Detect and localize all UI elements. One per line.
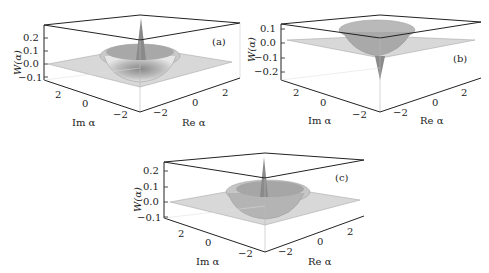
x-tick: 0 [192, 98, 198, 108]
x-tick: −2 [153, 108, 168, 118]
y-tick: −2 [113, 110, 128, 120]
y-axis-label: Im α [72, 118, 95, 128]
x-tick: 0 [432, 98, 438, 108]
y-tick: 2 [178, 229, 184, 239]
x-tick: 2 [222, 88, 228, 98]
y-tick: 2 [293, 88, 299, 98]
surface-plot-b [245, 0, 489, 135]
x-tick: −2 [278, 247, 293, 257]
x-tick: −2 [393, 108, 408, 118]
z-tick: 0.0 [143, 197, 159, 207]
z-tick: 0.2 [143, 166, 159, 176]
y-axis-label: Im α [196, 257, 219, 267]
panel-b: 0.1 0.0 −0.1 −0.2 W(α) (b) 2 0 −2 −2 0 2… [245, 0, 489, 135]
z-tick: 0.0 [260, 38, 276, 48]
y-tick: −2 [238, 249, 253, 259]
x-tick: 2 [461, 88, 467, 98]
z-axis-label: W(α) [246, 37, 257, 62]
y-tick: 2 [55, 90, 61, 100]
x-tick: 0 [317, 237, 323, 247]
z-axis-label: W(α) [12, 50, 23, 75]
z-tick: 0.0 [23, 59, 39, 69]
z-tick: 0.1 [260, 24, 276, 34]
x-axis-label: Re α [308, 257, 331, 267]
panel-tag: (c) [335, 172, 348, 183]
panel-a: 0.2 0.1 0.0 −0.1 W(α) (a) 2 0 −2 −2 0 2 … [0, 0, 245, 135]
z-tick: −0.1 [254, 53, 278, 63]
z-tick: 0.2 [23, 33, 39, 43]
y-tick: 0 [82, 99, 88, 109]
panel-tag: (a) [212, 36, 226, 47]
z-tick: −0.1 [137, 213, 161, 223]
z-tick: −0.2 [254, 67, 278, 77]
x-axis-label: Re α [420, 116, 443, 126]
y-tick: 0 [205, 238, 211, 248]
z-tick: 0.1 [23, 46, 39, 56]
z-axis-label: W(α) [132, 187, 143, 212]
panel-c: 0.2 0.1 0.0 −0.1 W(α) (c) 2 0 −2 −2 0 2 … [120, 135, 370, 273]
x-axis-label: Re α [182, 118, 205, 128]
panel-tag: (b) [453, 53, 467, 64]
y-tick: −2 [352, 110, 367, 120]
y-tick: 0 [320, 98, 326, 108]
z-tick: 0.1 [143, 182, 159, 192]
y-axis-label: Im α [308, 116, 331, 126]
x-tick: 2 [347, 227, 353, 237]
